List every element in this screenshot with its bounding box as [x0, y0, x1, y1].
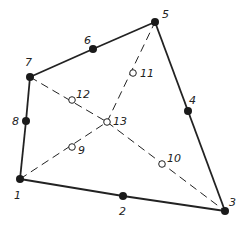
node-label-5: 5	[162, 8, 169, 21]
edge-6-7	[30, 49, 93, 77]
node-label-13: 13	[113, 115, 127, 128]
node-7-solid-dot-icon	[26, 73, 34, 81]
node-11-open-circle-icon	[130, 70, 137, 77]
node-label-9: 9	[78, 144, 85, 157]
node-labels: 12345678910111213	[12, 8, 236, 218]
node-label-1: 1	[14, 189, 21, 202]
edge-5-6	[93, 22, 155, 49]
edge-8-1	[20, 121, 26, 179]
node-13-open-circle-icon	[104, 119, 111, 126]
node-10-open-circle-icon	[159, 161, 166, 168]
node-3-solid-dot-icon	[221, 207, 229, 215]
edge-4-5	[155, 22, 188, 111]
node-label-4: 4	[189, 94, 196, 107]
node-5-solid-dot-icon	[151, 18, 159, 26]
dashed-line-1-13	[20, 122, 107, 179]
node-label-7: 7	[25, 56, 32, 69]
node-label-3: 3	[229, 196, 236, 209]
node-4-solid-dot-icon	[184, 107, 192, 115]
node-label-12: 12	[76, 88, 90, 101]
edge-3-4	[188, 111, 225, 211]
node-label-2: 2	[119, 205, 126, 218]
node-2-solid-dot-icon	[119, 192, 127, 200]
finite-element-diagram: 12345678910111213	[0, 0, 245, 226]
node-12-open-circle-icon	[69, 97, 76, 104]
node-label-10: 10	[167, 152, 181, 165]
node-label-11: 11	[140, 67, 154, 80]
node-label-6: 6	[84, 34, 91, 47]
edge-2-3	[123, 196, 225, 211]
edge-7-8	[26, 77, 30, 121]
node-9-open-circle-icon	[69, 144, 76, 151]
node-1-solid-dot-icon	[16, 175, 24, 183]
quadrilateral-element-svg: 12345678910111213	[0, 0, 245, 226]
edge-1-2	[20, 179, 123, 196]
node-label-8: 8	[12, 115, 19, 128]
node-8-solid-dot-icon	[22, 117, 30, 125]
